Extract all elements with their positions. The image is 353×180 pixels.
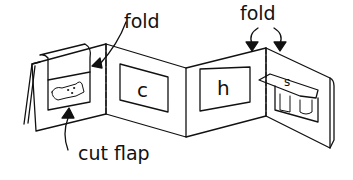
panel-4-flap-letter: s — [284, 76, 290, 88]
fold-label-left: fold — [124, 12, 160, 31]
cut-flap-label: cut flap — [78, 144, 150, 163]
folded-book-drawing — [0, 0, 353, 180]
panel-2-letter: c — [137, 80, 148, 100]
dog-picture — [52, 82, 84, 100]
fold-pointer-line — [100, 22, 126, 64]
arrow-head-icon — [274, 42, 286, 51]
fold-label-right: fold — [240, 4, 276, 23]
panel-3-letter: h — [217, 78, 230, 98]
arrow-head-icon — [62, 108, 74, 118]
cut-flap — [40, 44, 90, 80]
arrow-head-icon — [246, 42, 258, 51]
arrow-head-icon — [92, 58, 102, 68]
